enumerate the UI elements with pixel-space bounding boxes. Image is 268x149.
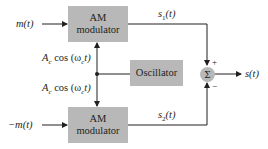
bottom-am-modulator-block: AM modulator — [68, 107, 128, 143]
sigma-symbol: Σ — [204, 70, 210, 80]
top-modulator-line2: modulator — [76, 24, 119, 36]
summer-plus-sign: + — [212, 56, 217, 68]
output-s-label: s(t) — [245, 68, 259, 80]
oscillator-label: Oscillator — [136, 67, 177, 79]
oscillator-block: Oscillator — [130, 60, 183, 86]
top-am-modulator-block: AM modulator — [68, 6, 128, 42]
bottom-modulator-line1: AM — [90, 113, 107, 125]
top-modulator-line1: AM — [90, 12, 107, 24]
s1-label: s1(t) — [158, 8, 176, 24]
carrier-top-label: Ac cos (ωct) — [42, 52, 91, 68]
input-m-label: m(t) — [16, 18, 34, 30]
bottom-modulator-line2: modulator — [76, 125, 119, 137]
s2-label: s2(t) — [158, 109, 176, 125]
input-neg-m-label: −m(t) — [8, 119, 33, 131]
summer-minus-sign: − — [212, 80, 217, 92]
carrier-bottom-label: Ac cos (ωct) — [42, 82, 91, 98]
